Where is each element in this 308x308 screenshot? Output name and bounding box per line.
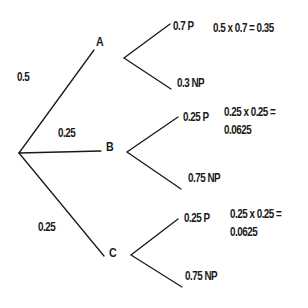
- calc-c-line2: 0.0625: [230, 225, 257, 239]
- outcome-c-p-label: 0.25 P: [184, 211, 209, 225]
- branch-a-outcomes: [124, 24, 171, 89]
- outcome-b-np-label: 0.75 NP: [188, 171, 220, 185]
- calc-b-line2: 0.0625: [224, 123, 251, 137]
- outcome-a-np-label: 0.3 NP: [177, 76, 204, 90]
- prob-c-label: 0.25: [38, 220, 55, 234]
- probability-tree-diagram: 0.5 0.25 0.25 A B C 0.7 P 0.3 NP 0.25 P …: [0, 0, 308, 308]
- branch-root-to-b: [19, 151, 101, 153]
- prob-a-label: 0.5: [17, 70, 29, 84]
- node-b-label: B: [106, 140, 113, 154]
- calc-b-line1: 0.25 x 0.25 =: [224, 105, 275, 119]
- tree-lines: [0, 0, 308, 308]
- outcome-b-p-label: 0.25 P: [183, 110, 208, 124]
- branch-b-outcomes: [127, 117, 181, 189]
- calc-a-line1: 0.5 x 0.7 = 0.35: [213, 21, 274, 35]
- branch-c-outcomes: [131, 219, 182, 287]
- node-a-label: A: [96, 35, 103, 49]
- outcome-a-p-label: 0.7 P: [173, 19, 194, 33]
- outcome-c-np-label: 0.75 NP: [185, 269, 217, 283]
- branch-root-to-a: [19, 50, 94, 153]
- branch-root-to-c: [19, 153, 104, 256]
- prob-b-label: 0.25: [58, 126, 75, 140]
- node-c-label: C: [109, 246, 116, 260]
- calc-c-line1: 0.25 x 0.25 =: [230, 207, 281, 221]
